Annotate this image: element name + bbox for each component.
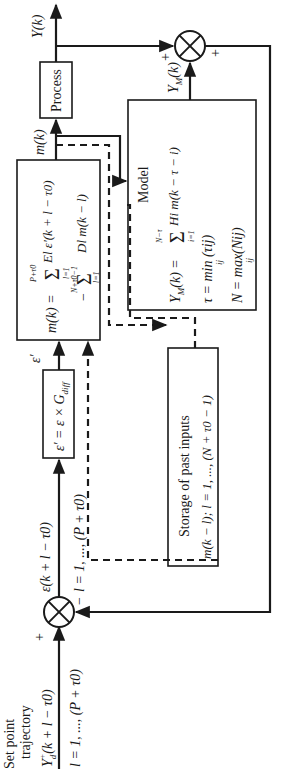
controller-eq1-term: El ε′(k + l − τ0) — [40, 180, 55, 264]
setpoint-label-line2: trajectory — [18, 705, 33, 759]
storage-box: Storage of past inputs m(k − l); l = 1, … — [168, 348, 218, 566]
model-output-label: YM(k) — [166, 62, 184, 93]
left-junction-plus-sign: + — [32, 633, 47, 641]
setpoint-label: Set point trajectory Yd+(k + l − τ0) l =… — [2, 669, 84, 769]
model-box-title: Model — [136, 166, 151, 203]
storage-box-content: m(k − l); l = 1, ..., (N + τ0 − 1) — [199, 395, 214, 559]
controller-output-label: m(k) — [32, 129, 48, 155]
controller-eq1-lhs: m(k) = — [44, 294, 60, 333]
setpoint-signal: Yd+(k + l − τ0) — [37, 689, 58, 767]
gain-output-label: ε′ — [28, 353, 43, 363]
model-sum-bottom: i=1 — [187, 230, 196, 242]
controller-sum2-bottom: l=1 — [92, 271, 101, 283]
gain-box: ε′ = ε ×Gdiff — [43, 370, 74, 458]
right-summing-junction — [175, 31, 205, 61]
model-eq3: N = max(Nij) — [230, 227, 246, 304]
left-summing-junction — [44, 597, 74, 627]
model-eq1-term: Hi m(k − τ − i) — [166, 147, 181, 227]
controller-sum2-top: N+τ0−1 — [70, 266, 79, 294]
model-eq2: τ = min (τij) — [200, 235, 216, 303]
left-junction-minus-sign: − — [72, 597, 87, 605]
storage-box-title: Storage of past inputs — [177, 415, 192, 537]
model-sum-top: N−τ — [155, 228, 164, 244]
error-signal-range: l = 1, ..., (P + τ0) — [72, 494, 88, 592]
setpoint-label-line1: Set point — [2, 719, 17, 769]
diagram-canvas: Set point trajectory Yd+(k + l − τ0) l =… — [0, 0, 283, 773]
model-eq2-sub: ij — [214, 259, 224, 265]
error-signal-label: ε(k + l − τ0) — [38, 522, 54, 592]
process-box-label: Process — [49, 69, 64, 112]
controller-box: m(k) = Σ P+τ0 l=1 El ε′(k + l − τ0) − Σ … — [17, 160, 101, 340]
setpoint-range: l = 1, ..., (P + τ0) — [68, 669, 84, 767]
model-eq3-sub: ij — [244, 257, 254, 263]
controller-eq2-sign: − — [76, 293, 91, 301]
process-box: Process — [40, 62, 72, 118]
controller-sum1-symbol: Σ — [41, 268, 63, 280]
process-output-label: Y(k) — [30, 14, 46, 38]
controller-eq2-term: Dl m(k − l) — [74, 194, 89, 254]
model-sum-symbol: Σ — [166, 231, 188, 243]
right-junction-plus-bottom: + — [208, 49, 223, 57]
controller-sum1-top: P+τ0 — [29, 265, 38, 283]
right-junction-plus-top: + — [158, 53, 173, 61]
model-box: Model YM(k) = Σ N−τ i=1 Hi m(k − τ − i) … — [128, 100, 256, 310]
